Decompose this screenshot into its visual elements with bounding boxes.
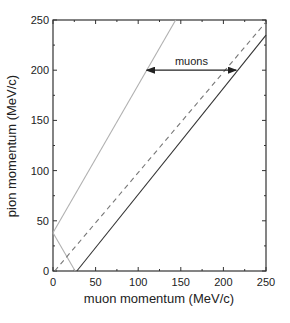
axis-ticks [53, 20, 266, 271]
series-dashed [55, 22, 266, 271]
x-tick-label: 150 [172, 276, 190, 288]
chart: 050100150200250 050100150200250 muons mu… [0, 0, 290, 323]
x-tick-label: 250 [257, 276, 275, 288]
x-tick-label: 200 [214, 276, 232, 288]
series-light-gray-falling [53, 233, 75, 271]
y-axis-label: pion momentum (MeV/c) [4, 75, 19, 217]
y-tick-label: 50 [37, 215, 49, 227]
y-tick-label: 100 [31, 165, 49, 177]
plot-frame [53, 20, 266, 271]
annotation-label: muons [175, 55, 209, 67]
x-tick-label: 100 [129, 276, 147, 288]
y-tick-label: 200 [31, 64, 49, 76]
y-tick-label: 150 [31, 114, 49, 126]
muons-annotation: muons [147, 55, 236, 70]
y-tick-label: 0 [43, 265, 49, 277]
x-tick-label: 0 [50, 276, 56, 288]
x-axis-label: muon momentum (MeV/c) [84, 291, 234, 306]
y-tick-label: 250 [31, 14, 49, 26]
x-tick-labels: 050100150200250 [50, 276, 275, 288]
x-tick-label: 50 [89, 276, 101, 288]
data-lines [53, 20, 266, 271]
y-tick-labels: 050100150200250 [31, 14, 49, 277]
